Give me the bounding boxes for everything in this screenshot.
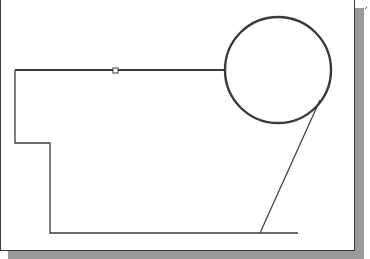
outline-polyline[interactable] [15,70,298,233]
tangent-line[interactable] [260,100,320,233]
corner-tick-mark [365,7,367,9]
circle-shape[interactable] [225,17,331,123]
cad-drawing [0,0,370,259]
selection-grip-icon[interactable] [113,68,118,73]
